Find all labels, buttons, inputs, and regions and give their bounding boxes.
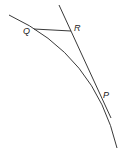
geometry-diagram: Q R P	[0, 0, 124, 152]
tangent-line	[59, 5, 111, 118]
segment-qr	[34, 29, 71, 31]
label-p: P	[103, 90, 109, 100]
label-r: R	[74, 23, 81, 33]
label-q: Q	[23, 26, 30, 36]
